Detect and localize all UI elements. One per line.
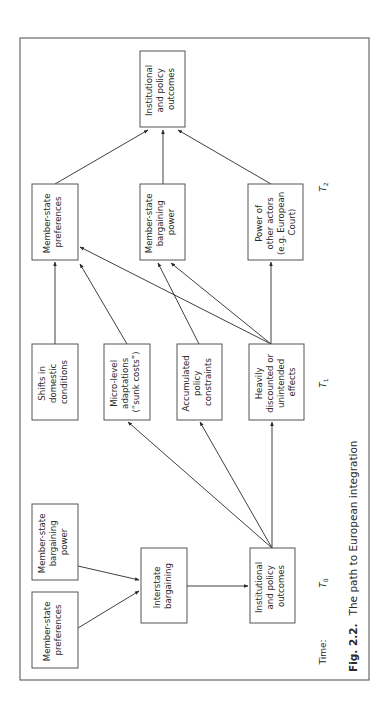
edge-other-actors-to-final (178, 130, 271, 184)
time-label-t2: T2 (318, 182, 329, 192)
edge-constraints-to-bargaining (158, 263, 199, 344)
figure-title: The path to European integration (347, 440, 359, 616)
time-label-t0: T0 (318, 578, 329, 588)
svg-text:Micro-level adaptations: Micro-level adaptations (“sunk costs”) (109, 352, 141, 413)
node-t0-outcomes: Institutional and policy outcomes (250, 548, 295, 623)
node-t0-bargaining-power: Member-state bargaining power (32, 504, 78, 580)
svg-text:Member-state preferences: Member-state preferences (42, 191, 63, 253)
node-t1-policy-constraints: Accumulated policy constraints (177, 344, 222, 420)
time-label-t1: T1 (318, 378, 329, 388)
node-t0-interstate-bargaining: Interstate bargaining (141, 548, 187, 623)
edge-micro-to-prefs (80, 264, 127, 344)
node-t0-preferences: Member-state preferences (32, 592, 78, 668)
svg-text:Institutional and policy: Institutional and policy outcomes (254, 559, 286, 613)
svg-text:Shifts in domestic: Shifts in domestic conditions (37, 359, 69, 404)
node-final-outcomes: Institutional and policy outcomes (140, 51, 185, 127)
edge-unintended-to-prefs (80, 247, 271, 344)
node-t2-other-actors: Power of other actors (e.g. European Cou… (248, 184, 303, 260)
time-caption: Time: (318, 639, 328, 665)
edge-outcomes-to-micro (128, 422, 272, 548)
figure-caption: Fig. 2.2.The path to European integratio… (347, 440, 359, 672)
edge-prefs-to-final (55, 130, 148, 184)
svg-text:Interstate bargaining: Interstate bargaining (152, 563, 173, 609)
edge-t0-power-to-interstate (78, 566, 139, 580)
node-t2-bargaining-power: Member-state bargaining power (140, 184, 185, 260)
node-t1-unintended-effects: Heavily discounted or unintended effects (249, 344, 304, 420)
svg-text:Member-state preferences: Member-state preferences (42, 599, 63, 661)
node-t1-domestic-shifts: Shifts in domestic conditions (32, 344, 78, 420)
node-t1-micro-adaptations: Micro-level adaptations (“sunk costs”) (104, 344, 150, 420)
figure-number: Fig. 2.2. (347, 623, 359, 672)
svg-text:Institutional and policy: Institutional and policy outcomes (144, 62, 176, 116)
edge-t0-prefs-to-interstate (78, 591, 139, 628)
node-t2-preferences: Member-state preferences (32, 184, 78, 260)
edge-outcomes-to-constraints (200, 422, 272, 548)
edge-unintended-to-bargaining (171, 263, 271, 344)
diagram-canvas: Institutional and policy outcomes Member… (0, 0, 388, 708)
